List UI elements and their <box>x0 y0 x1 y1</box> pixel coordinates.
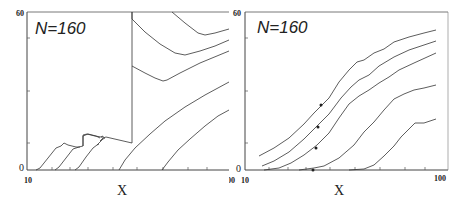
marker-curve-1 <box>320 104 323 107</box>
left-chart-panel: 60 0 10 X N=160 <box>0 0 229 198</box>
curve-jump <box>100 12 132 143</box>
curve-7 <box>132 19 229 55</box>
curve-3 <box>75 138 105 170</box>
left-panel-x-tick-max: 100 <box>229 176 235 185</box>
x-tick-min: 10 <box>241 176 249 185</box>
curve-1 <box>259 30 436 156</box>
x-tick-min: 10 <box>24 176 32 185</box>
left-chart-svg: 60 0 10 X N=160 <box>0 0 229 198</box>
curve-4 <box>119 82 229 170</box>
curve-3 <box>264 53 436 170</box>
x-tick-max: 100 <box>434 174 446 183</box>
y-tick-max: 60 <box>233 9 241 18</box>
curve-5 <box>349 119 436 170</box>
marker-curve-3 <box>315 147 318 150</box>
x-axis-label: X <box>334 183 344 198</box>
curve-6 <box>132 51 229 81</box>
curve-2 <box>55 134 100 170</box>
right-curves <box>259 30 436 170</box>
y-tick-max: 60 <box>16 9 24 18</box>
curve-1 <box>36 143 80 170</box>
n-annotation: N=160 <box>35 19 86 38</box>
curve-5 <box>162 110 229 170</box>
x-axis-label: X <box>117 183 127 198</box>
y-tick-min: 0 <box>236 163 241 174</box>
curve-4 <box>299 85 436 170</box>
y-tick-min: 0 <box>19 162 24 173</box>
curve-8 <box>172 12 229 35</box>
marker-curve-4 <box>312 169 315 172</box>
right-chart-panel: 60 0 10 100 100 X N=160 <box>229 0 458 198</box>
n-annotation: N=160 <box>257 18 308 37</box>
right-chart-svg: 60 0 10 100 100 X N=160 <box>229 0 458 198</box>
marker-curve-2 <box>317 126 320 129</box>
